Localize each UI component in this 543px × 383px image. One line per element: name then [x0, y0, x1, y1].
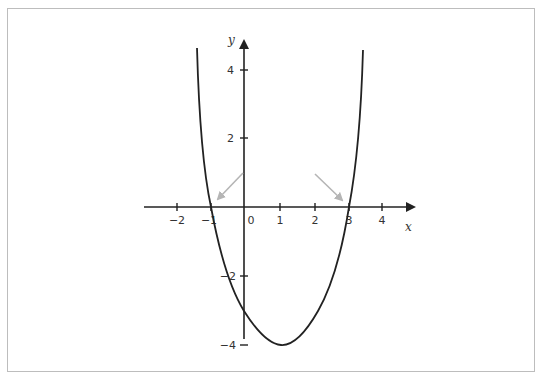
x-intercept-arrow-left	[218, 173, 243, 199]
y-tick-label-neg4: −4	[220, 339, 236, 352]
x-tick-label-4: 4	[379, 214, 386, 227]
y-axis-label: y	[227, 33, 235, 47]
x-tick-label-2: 2	[312, 214, 319, 227]
x-tick-label-1: 1	[277, 214, 284, 227]
x-tick-label-neg2: −2	[169, 214, 185, 227]
x-tick-label-0: 0	[248, 214, 255, 227]
y-tick-label-4: 4	[227, 64, 234, 77]
y-tick-label-2: 2	[227, 132, 234, 145]
x-axis-label: x	[405, 220, 412, 234]
x-intercept-arrow-right	[315, 174, 342, 200]
chart-canvas: −2 −1 0 1 2 3 4 4 2 −2 −4 y x	[0, 0, 543, 383]
